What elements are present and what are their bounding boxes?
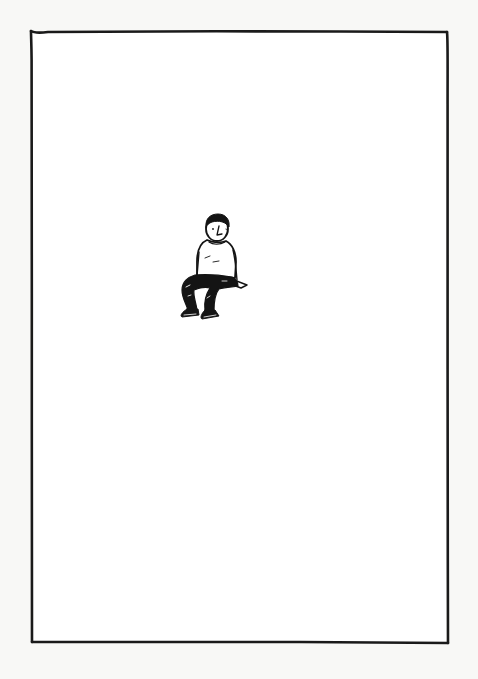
head (206, 214, 229, 241)
ink-drawing (0, 0, 478, 679)
illustration-page: Hand-drawn ink rectangular frame with a … (0, 0, 478, 679)
